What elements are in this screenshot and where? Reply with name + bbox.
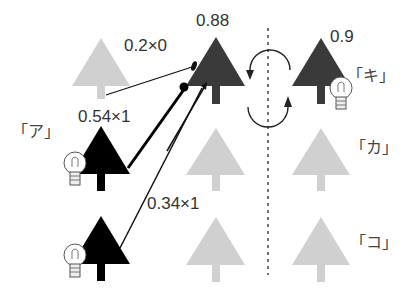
output-value-right-top: 0.9	[330, 28, 354, 45]
excitatory-synapse-dot	[180, 83, 189, 92]
label-right-middle: 「カ」	[350, 140, 398, 156]
cycle-arrows	[246, 50, 292, 127]
tree-output-middle-top	[186, 37, 245, 104]
connection-line-middle-thick	[128, 88, 185, 168]
tree-inactive-middle-middle	[186, 128, 245, 191]
output-value-left-top: 0.88	[196, 12, 229, 29]
connection-line-secondary	[167, 86, 205, 151]
tree-inactive-right-bottom	[292, 217, 350, 282]
label-right-bottom: 「コ」	[350, 235, 398, 251]
tree-inactive-middle-bottom	[186, 217, 245, 282]
label-right-top: 「キ」	[347, 68, 395, 84]
lightbulb-icon-left-bottom	[64, 244, 86, 277]
tree-inactive-right-middle	[292, 128, 350, 191]
weight-label-top: 0.2×0	[124, 37, 167, 54]
weight-label-bottom: 0.34×1	[147, 195, 199, 212]
weight-label-middle: 0.54×1	[78, 108, 130, 125]
lightbulb-icon-left-middle	[64, 152, 86, 185]
label-left-middle: 「ア」	[12, 124, 60, 140]
